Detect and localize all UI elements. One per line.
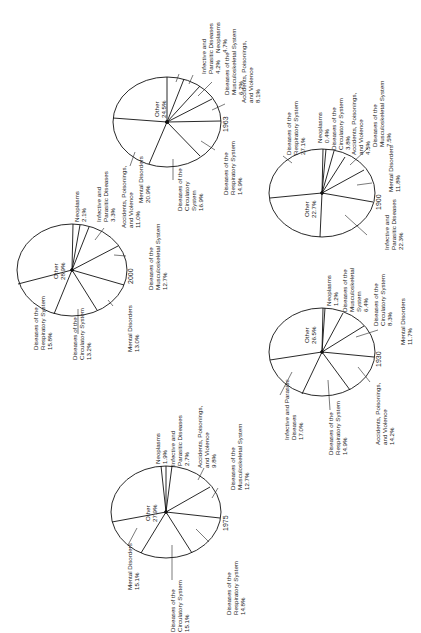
label-1900-musculo: Diseases of theMusculoskeletal System7.5… <box>357 81 399 147</box>
label-1930-accidents: Accidents, Poisonings,and Violence14.2% <box>360 383 402 445</box>
pie-1900 <box>269 149 375 237</box>
label-1930-respiratory: Diseases of theRespiratory System14.9% <box>313 401 355 455</box>
year-1930: 1930 <box>375 351 382 367</box>
label-1930-infective: Infective and ParasiticDiseases17.0% <box>269 379 311 440</box>
label-2000-mental: Mental Disorders13.0% <box>112 305 147 352</box>
label-1963-circulatory: Diseases of theCirculatorySystem16.9% <box>162 168 211 211</box>
label-1975-respiratory: Diseases of theRespiratory System14.8% <box>211 561 253 615</box>
year-1963: 1963 <box>222 116 229 132</box>
label-1930-other: Other26.5% <box>289 326 324 344</box>
label-2000-respiratory: Diseases of theRespiratory System15.8% <box>18 296 60 350</box>
label-1975-other: Other27.9% <box>130 504 165 522</box>
label-1963-other: Other24.5% <box>139 100 174 118</box>
label-2000-other: Other28.9% <box>38 262 73 280</box>
label-2000-circulatory: Diseases of theCirculatory System13.2% <box>57 308 99 360</box>
pie-1963 <box>113 77 221 167</box>
label-1930-mental: Mental Disorders11.7% <box>385 298 420 345</box>
label-2000-accidents: Accidents, Poisonings,and Violence11.0% <box>106 166 148 228</box>
label-1975-mental: Mental Disorders15.1% <box>112 543 147 590</box>
year-2000: 2000 <box>127 268 134 284</box>
label-1975-musculo: Diseases of theMusculoskeletal System12.… <box>215 424 257 490</box>
label-1900-mental: Mental Disorders11.8% <box>373 145 408 192</box>
year-1975: 1975 <box>222 515 229 531</box>
label-1900-infective: Infective andParasitic Diseases22.3% <box>369 199 411 250</box>
label-1900-other: Other22.7% <box>289 200 324 218</box>
label-2000-musculo: Diseases of theMusculoskeletal System12.… <box>133 224 175 290</box>
label-1963-respiratory: Diseases of theRespiratory System14.9% <box>208 141 250 195</box>
label-1975-circulatory: Diseases of theCirculatory System15.1% <box>155 580 197 632</box>
label-1963-accidents: Accidents, Poisonings,and Violence8.1% <box>226 41 268 103</box>
